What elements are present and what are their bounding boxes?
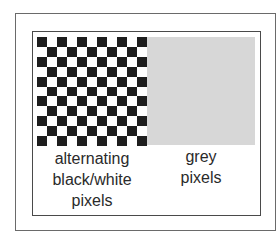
black-pixel — [97, 116, 107, 126]
white-pixel — [117, 67, 127, 77]
white-pixel — [57, 87, 67, 97]
white-pixel — [87, 136, 97, 146]
white-pixel — [97, 87, 107, 97]
black-pixel — [47, 126, 57, 136]
black-pixel — [127, 67, 137, 77]
black-pixel — [97, 57, 107, 67]
white-pixel — [57, 67, 67, 77]
white-pixel — [107, 57, 117, 67]
black-pixel — [37, 77, 47, 87]
black-pixel — [127, 126, 137, 136]
black-pixel — [117, 116, 127, 126]
white-pixel — [37, 106, 47, 116]
checkerboard-label-line-2: black/white — [37, 169, 147, 190]
black-pixel — [107, 87, 117, 97]
black-pixel — [77, 77, 87, 87]
white-pixel — [47, 136, 57, 146]
white-pixel — [127, 96, 137, 106]
black-pixel — [87, 67, 97, 77]
black-pixel — [137, 116, 147, 126]
white-pixel — [137, 87, 147, 97]
black-pixel — [117, 37, 127, 47]
white-pixel — [77, 106, 87, 116]
white-pixel — [47, 37, 57, 47]
white-pixel — [127, 37, 137, 47]
grey-label: grey pixels — [147, 146, 255, 188]
white-pixel — [107, 96, 117, 106]
white-pixel — [87, 57, 97, 67]
black-pixel — [37, 37, 47, 47]
white-pixel — [87, 116, 97, 126]
checkerboard-label-line-1: alternating — [37, 148, 147, 169]
black-pixel — [87, 126, 97, 136]
grey-block — [147, 37, 255, 145]
black-pixel — [117, 77, 127, 87]
black-pixel — [117, 57, 127, 67]
checkerboard-label: alternating black/white pixels — [37, 148, 147, 211]
black-pixel — [47, 67, 57, 77]
black-pixel — [117, 96, 127, 106]
black-pixel — [97, 77, 107, 87]
white-pixel — [67, 37, 77, 47]
black-pixel — [57, 96, 67, 106]
white-pixel — [87, 96, 97, 106]
black-pixel — [57, 77, 67, 87]
black-pixel — [57, 57, 67, 67]
black-pixel — [137, 136, 147, 146]
white-pixel — [37, 87, 47, 97]
black-pixel — [127, 47, 137, 57]
white-pixel — [137, 67, 147, 77]
white-pixel — [77, 47, 87, 57]
white-pixel — [107, 37, 117, 47]
black-pixel — [107, 67, 117, 77]
white-pixel — [67, 136, 77, 146]
white-pixel — [37, 47, 47, 57]
white-pixel — [47, 96, 57, 106]
white-pixel — [137, 106, 147, 116]
black-pixel — [77, 96, 87, 106]
black-pixel — [37, 57, 47, 67]
black-pixel — [47, 87, 57, 97]
black-pixel — [67, 87, 77, 97]
white-pixel — [137, 126, 147, 136]
white-pixel — [37, 126, 47, 136]
black-pixel — [87, 47, 97, 57]
black-pixel — [37, 96, 47, 106]
white-pixel — [77, 126, 87, 136]
white-pixel — [107, 136, 117, 146]
black-pixel — [117, 136, 127, 146]
black-pixel — [57, 37, 67, 47]
black-pixel — [37, 116, 47, 126]
white-pixel — [127, 77, 137, 87]
black-pixel — [67, 67, 77, 77]
white-pixel — [67, 96, 77, 106]
black-pixel — [97, 96, 107, 106]
black-pixel — [47, 47, 57, 57]
white-pixel — [127, 57, 137, 67]
black-pixel — [77, 136, 87, 146]
black-pixel — [137, 77, 147, 87]
white-pixel — [117, 87, 127, 97]
black-pixel — [57, 136, 67, 146]
black-pixel — [127, 106, 137, 116]
white-pixel — [67, 116, 77, 126]
white-pixel — [67, 77, 77, 87]
white-pixel — [97, 126, 107, 136]
grey-label-line-1: grey — [147, 146, 255, 167]
black-pixel — [127, 87, 137, 97]
white-pixel — [47, 77, 57, 87]
black-pixel — [47, 106, 57, 116]
black-pixel — [97, 37, 107, 47]
black-pixel — [77, 37, 87, 47]
white-pixel — [97, 106, 107, 116]
white-pixel — [97, 47, 107, 57]
white-pixel — [137, 47, 147, 57]
black-pixel — [137, 96, 147, 106]
black-pixel — [67, 106, 77, 116]
black-pixel — [67, 47, 77, 57]
white-pixel — [87, 37, 97, 47]
white-pixel — [117, 126, 127, 136]
white-pixel — [67, 57, 77, 67]
white-pixel — [127, 116, 137, 126]
white-pixel — [87, 77, 97, 87]
